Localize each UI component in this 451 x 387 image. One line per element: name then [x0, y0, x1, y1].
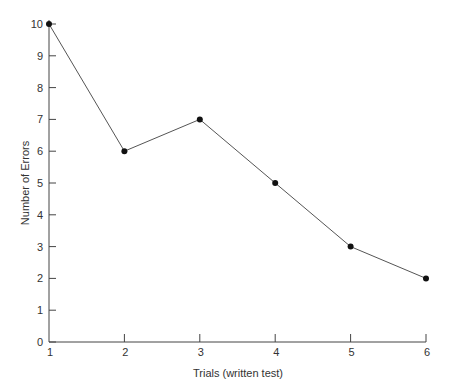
x-axis-ticks: 123456 [47, 334, 430, 358]
x-tick-label: 2 [122, 346, 128, 358]
x-axis-label: Trials (written test) [193, 367, 283, 379]
y-tick-label: 7 [37, 113, 43, 125]
y-tick-label: 10 [31, 18, 43, 30]
y-tick-label: 6 [37, 145, 43, 157]
y-tick-label: 9 [37, 50, 43, 62]
x-tick-label: 4 [273, 346, 279, 358]
data-point-marker [423, 275, 429, 281]
x-tick-label: 1 [47, 346, 53, 358]
y-tick-label: 8 [37, 82, 43, 94]
y-tick-label: 4 [37, 209, 43, 221]
errors-series-line [49, 24, 426, 278]
data-point-marker [121, 148, 127, 154]
data-point-marker [272, 180, 278, 186]
y-tick-label: 3 [37, 241, 43, 253]
data-point-marker [348, 244, 354, 250]
y-tick-label: 5 [37, 177, 43, 189]
line-chart: 012345678910 123456 Trials (written test… [0, 0, 451, 387]
y-axis-ticks: 012345678910 [31, 18, 56, 348]
x-tick-label: 6 [424, 346, 430, 358]
data-point-marker [197, 116, 203, 122]
axes [49, 20, 426, 342]
y-axis-label: Number of Errors [19, 140, 31, 225]
y-tick-label: 0 [37, 336, 43, 348]
data-point-marker [46, 21, 52, 27]
y-tick-label: 2 [37, 272, 43, 284]
x-tick-label: 5 [349, 346, 355, 358]
x-tick-label: 3 [198, 346, 204, 358]
y-tick-label: 1 [37, 304, 43, 316]
